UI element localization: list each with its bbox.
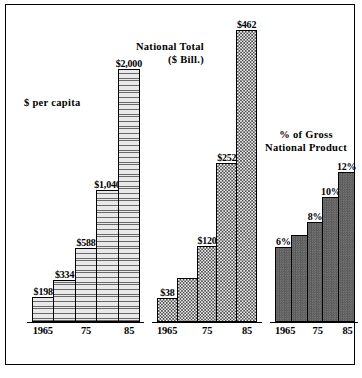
- bar-per-capita-1965[interactable]: $198: [32, 297, 54, 322]
- bar-value-label: $120: [197, 235, 216, 246]
- bar-value-label: $38: [160, 287, 174, 298]
- tick-label: 85: [118, 325, 140, 336]
- bar-per-capita-1980[interactable]: $1,040: [96, 190, 118, 322]
- bar-value-label: $588: [76, 237, 95, 248]
- bars-per-capita: $198 $334 $588 $1,040 $2,000: [32, 69, 140, 322]
- bar-value-label: $334: [55, 269, 74, 280]
- tick-label: 75: [75, 325, 97, 336]
- bar-value-label: $252: [217, 152, 236, 163]
- tick-label: 1965: [32, 325, 54, 336]
- bar-value-label: 6%: [276, 236, 291, 247]
- tick-label: 85: [237, 325, 257, 336]
- bar-group-national-total: $38 $120 $252 $462: [157, 30, 257, 322]
- bar-group-pct-gnp: 6% 8% 10% 12%: [275, 172, 355, 322]
- bar-national-total-1965[interactable]: $38: [157, 298, 178, 322]
- bars-national-total: $38 $120 $252 $462: [157, 30, 257, 322]
- bar-value-label: 12%: [337, 161, 356, 172]
- bar-pct-gnp-1980[interactable]: 10%: [322, 197, 339, 322]
- axis-line-national-total: [152, 322, 262, 323]
- bar-group-per-capita: $198 $334 $588 $1,040 $2,000: [32, 69, 140, 322]
- bar-value-label: 8%: [308, 211, 323, 222]
- bar-national-total-1985[interactable]: $462: [236, 30, 257, 322]
- bar-national-total-1970[interactable]: [177, 278, 198, 322]
- bar-value-label: $1,040: [94, 179, 120, 190]
- bar-per-capita-1975[interactable]: $588: [75, 248, 97, 322]
- chart-frame: $ per capita National Total ($ Bill.) % …: [5, 4, 355, 365]
- bar-value-label: $2,000: [116, 58, 142, 69]
- panel-title-pct-gnp: % of Gross National Product: [254, 129, 358, 154]
- tick-label: 75: [310, 325, 325, 336]
- bar-value-label: $198: [34, 286, 53, 297]
- bar-national-total-1980[interactable]: $252: [216, 163, 237, 322]
- tick-label: 1965: [157, 325, 177, 336]
- tick-label: 1965: [275, 325, 295, 336]
- chart-plot-area: $ per capita National Total ($ Bill.) % …: [6, 5, 354, 364]
- bar-per-capita-1985[interactable]: $2,000: [118, 69, 140, 322]
- tick-label: 75: [197, 325, 217, 336]
- tick-labels-national-total: 1965 75 85: [157, 325, 257, 340]
- bar-pct-gnp-1975[interactable]: 8%: [307, 222, 324, 322]
- axis-line-pct-gnp: [270, 322, 358, 323]
- bar-pct-gnp-1985[interactable]: 12%: [338, 172, 355, 322]
- bar-pct-gnp-1965[interactable]: 6%: [275, 247, 292, 322]
- bar-pct-gnp-1970[interactable]: [291, 235, 308, 322]
- bar-value-label: $462: [237, 19, 256, 30]
- tick-label: 85: [340, 325, 355, 336]
- bars-pct-gnp: 6% 8% 10% 12%: [275, 172, 355, 322]
- tick-labels-pct-gnp: 1965 75 85: [275, 325, 355, 340]
- bar-per-capita-1970[interactable]: $334: [53, 280, 75, 322]
- bar-national-total-1975[interactable]: $120: [197, 246, 218, 322]
- tick-labels-per-capita: 1965 75 85: [32, 325, 140, 340]
- axis-line-per-capita: [27, 322, 144, 323]
